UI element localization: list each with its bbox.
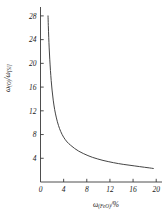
y-axis-label: ω(O)/ω[Si] [4,42,12,114]
data-series-curve [48,16,153,169]
x-tick-label: 0 [39,185,43,194]
x-tick-label: 8 [85,185,89,194]
x-tick-labels: 048121620 [39,185,161,194]
y-axis-label-omega2: ω [3,72,12,77]
y-axis-label-sub2: [Si] [6,64,12,72]
y-axis-label-omega1: ω [3,87,12,92]
y-tick-label: 4 [33,154,37,163]
y-tick-labels: 481216202428 [29,12,37,163]
y-axis-ticks [41,16,44,158]
x-axis-label-sub: (FeO) [98,203,110,209]
axis-lines [41,7,163,182]
x-axis-label: ω(FeO)/% [0,201,168,209]
y-axis-label-slash: / [3,78,12,80]
x-tick-label: 20 [152,185,160,194]
y-tick-label: 24 [29,35,37,44]
y-tick-label: 20 [29,59,37,68]
y-tick-label: 8 [33,130,37,139]
y-tick-label: 16 [29,83,37,92]
chart-figure: 048121620 481216202428 ω(O)/ω[Si] ω(FeO)… [0,0,168,215]
y-axis-label-sub1: (O) [6,80,12,87]
series-line [48,16,153,169]
x-axis-label-unit: /% [111,200,119,209]
x-tick-label: 4 [62,185,66,194]
x-tick-label: 12 [106,185,114,194]
y-tick-label: 28 [29,12,37,21]
x-tick-label: 16 [129,185,137,194]
chart-plot-area: 048121620 481216202428 [0,0,168,215]
x-axis-ticks [64,179,157,182]
y-tick-label: 12 [29,107,37,116]
